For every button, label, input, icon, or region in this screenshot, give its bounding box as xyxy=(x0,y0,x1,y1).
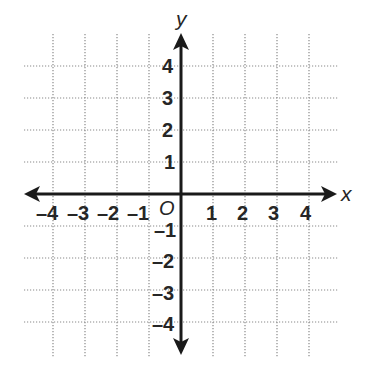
coordinate-plane: x y O –4 –3 –2 –1 1 2 3 4 4 3 2 1 –1 –2 … xyxy=(0,0,366,368)
x-tick-label: 4 xyxy=(300,202,312,224)
x-tick-label: 3 xyxy=(268,202,279,224)
y-tick-label: –1 xyxy=(154,219,176,241)
y-tick-label: –4 xyxy=(152,313,175,335)
origin-label: O xyxy=(159,197,175,219)
x-tick-label: 1 xyxy=(206,202,217,224)
y-tick-label: –3 xyxy=(152,282,174,304)
x-tick-label: –1 xyxy=(127,202,149,224)
x-tick-label: 2 xyxy=(237,202,248,224)
y-axis-name: y xyxy=(174,7,188,30)
y-tick-label: 4 xyxy=(162,55,174,77)
y-tick-label: 3 xyxy=(162,87,173,109)
x-tick-label: –4 xyxy=(36,202,59,224)
x-tick-label: –3 xyxy=(67,202,89,224)
x-axis-name: x xyxy=(340,182,353,205)
y-tick-label: 1 xyxy=(164,151,175,173)
x-tick-label: –2 xyxy=(97,202,119,224)
y-tick-label: –2 xyxy=(152,250,174,272)
y-tick-label: 2 xyxy=(162,119,173,141)
